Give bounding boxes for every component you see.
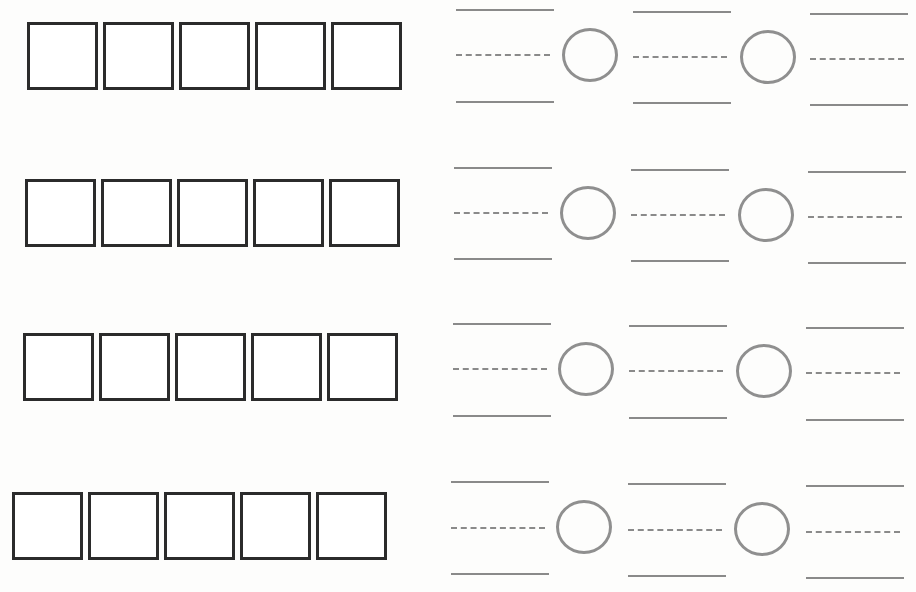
fraction-bar	[806, 372, 900, 374]
fraction-bar-boxes	[25, 179, 400, 247]
fraction-bar-boxes	[23, 333, 398, 401]
fraction-bar-boxes	[12, 492, 387, 560]
denominator-line[interactable]	[808, 262, 906, 264]
numerator-line[interactable]	[628, 483, 726, 485]
worksheet-row-4	[0, 440, 916, 560]
denominator-line[interactable]	[633, 102, 731, 104]
fraction-bar	[633, 56, 727, 58]
numerator-line[interactable]	[454, 167, 552, 169]
fraction-bar-boxes	[27, 22, 402, 90]
comparison-circle[interactable]	[558, 342, 614, 396]
answer-box[interactable]	[99, 333, 170, 401]
comparison-circle[interactable]	[740, 30, 796, 84]
fraction-bar	[453, 368, 547, 370]
answer-box[interactable]	[331, 22, 402, 90]
answer-box[interactable]	[255, 22, 326, 90]
comparison-circle[interactable]	[736, 344, 792, 398]
answer-box[interactable]	[327, 333, 398, 401]
answer-box[interactable]	[329, 179, 400, 247]
comparison-circle[interactable]	[562, 28, 618, 82]
denominator-line[interactable]	[631, 260, 729, 262]
numerator-line[interactable]	[806, 327, 904, 329]
numerator-line[interactable]	[629, 325, 727, 327]
numerator-line[interactable]	[810, 13, 908, 15]
answer-box[interactable]	[177, 179, 248, 247]
answer-box[interactable]	[251, 333, 322, 401]
fraction-bar	[456, 54, 550, 56]
denominator-line[interactable]	[806, 419, 904, 421]
answer-box[interactable]	[103, 22, 174, 90]
denominator-line[interactable]	[628, 575, 726, 577]
fraction-bar	[629, 370, 723, 372]
answer-box[interactable]	[175, 333, 246, 401]
comparison-circle[interactable]	[556, 500, 612, 554]
fraction-bar	[810, 58, 904, 60]
numerator-line[interactable]	[456, 9, 554, 11]
fraction-bar	[631, 214, 725, 216]
fraction-bar	[451, 527, 545, 529]
numerator-line[interactable]	[453, 323, 551, 325]
comparison-circle[interactable]	[560, 186, 616, 240]
answer-box[interactable]	[316, 492, 387, 560]
worksheet-row-1	[0, 0, 916, 120]
denominator-line[interactable]	[454, 258, 552, 260]
denominator-line[interactable]	[451, 573, 549, 575]
fraction-bar	[806, 531, 900, 533]
answer-box[interactable]	[101, 179, 172, 247]
comparison-circle[interactable]	[738, 188, 794, 242]
denominator-line[interactable]	[806, 577, 904, 579]
numerator-line[interactable]	[451, 481, 549, 483]
answer-box[interactable]	[240, 492, 311, 560]
worksheet-row-3	[0, 305, 916, 425]
numerator-line[interactable]	[631, 169, 729, 171]
answer-box[interactable]	[12, 492, 83, 560]
numerator-line[interactable]	[633, 11, 731, 13]
answer-box[interactable]	[88, 492, 159, 560]
answer-box[interactable]	[179, 22, 250, 90]
denominator-line[interactable]	[810, 104, 908, 106]
denominator-line[interactable]	[629, 417, 727, 419]
answer-box[interactable]	[164, 492, 235, 560]
worksheet-row-2	[0, 150, 916, 270]
answer-box[interactable]	[23, 333, 94, 401]
fraction-bar	[628, 529, 722, 531]
answer-box[interactable]	[25, 179, 96, 247]
comparison-circle[interactable]	[734, 502, 790, 556]
fraction-bar	[454, 212, 548, 214]
denominator-line[interactable]	[456, 101, 554, 103]
answer-box[interactable]	[27, 22, 98, 90]
denominator-line[interactable]	[453, 415, 551, 417]
numerator-line[interactable]	[806, 485, 904, 487]
numerator-line[interactable]	[808, 171, 906, 173]
fraction-bar	[808, 216, 902, 218]
answer-box[interactable]	[253, 179, 324, 247]
